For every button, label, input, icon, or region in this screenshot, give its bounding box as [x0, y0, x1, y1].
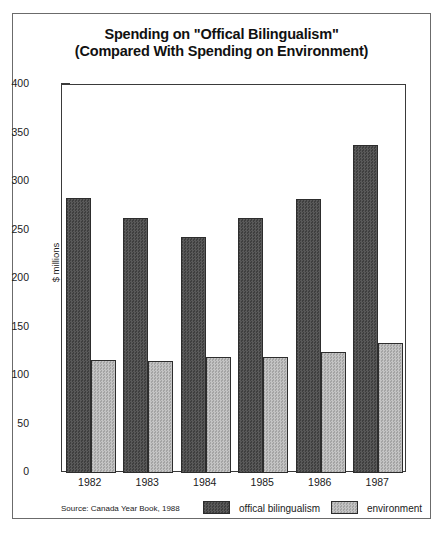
x-tick-label-1986: 1986	[290, 476, 350, 488]
legend-swatch-offical-bilingualism	[203, 501, 230, 514]
legend-label-offical-bilingualism: offical bilingualism	[239, 503, 320, 514]
bar-offical-bilingualism-1985	[238, 218, 263, 473]
chart-title-block: Spending on "Offical Bilingualism" (Comp…	[13, 26, 430, 60]
bar-offical-bilingualism-1987	[353, 145, 378, 473]
y-tick-label: 50	[0, 418, 29, 429]
bar-environment-1986	[321, 352, 346, 473]
bar-environment-1987	[378, 343, 403, 473]
x-tick-label-1983: 1983	[117, 476, 177, 488]
y-tick-label: 300	[0, 175, 29, 186]
y-tick-label: 100	[0, 369, 29, 380]
bar-offical-bilingualism-1982	[66, 198, 91, 473]
y-tick-label: 150	[0, 321, 29, 332]
plot-area	[61, 84, 406, 472]
source-note: Source: Canada Year Book, 1988	[61, 504, 180, 513]
legend-swatch-environment	[331, 501, 358, 514]
y-tick-label: 350	[0, 127, 29, 138]
chart-title: Spending on "Offical Bilingualism"	[13, 26, 430, 43]
legend-label-environment: environment	[367, 503, 422, 514]
y-tick-label: 250	[0, 224, 29, 235]
x-tick-label-1982: 1982	[60, 476, 120, 488]
x-tick-label-1984: 1984	[175, 476, 235, 488]
x-tick-label-1985: 1985	[232, 476, 292, 488]
bar-offical-bilingualism-1984	[181, 237, 206, 473]
bar-offical-bilingualism-1986	[296, 199, 321, 473]
y-axis-label: $ millions	[50, 203, 61, 323]
y-tick-label: 400	[0, 78, 29, 89]
chart-footer: Source: Canada Year Book, 1988 offical b…	[61, 501, 411, 517]
bar-environment-1984	[206, 357, 231, 473]
bar-environment-1983	[148, 361, 173, 473]
y-tick-label: 0	[0, 466, 29, 477]
x-tick-label-1987: 1987	[347, 476, 407, 488]
chart-subtitle: (Compared With Spending on Environment)	[13, 43, 430, 60]
y-tick-label: 200	[0, 272, 29, 283]
chart-figure: Spending on "Offical Bilingualism" (Comp…	[12, 13, 431, 519]
bar-offical-bilingualism-1983	[123, 218, 148, 473]
bar-environment-1982	[91, 360, 116, 473]
bar-environment-1985	[263, 357, 288, 473]
